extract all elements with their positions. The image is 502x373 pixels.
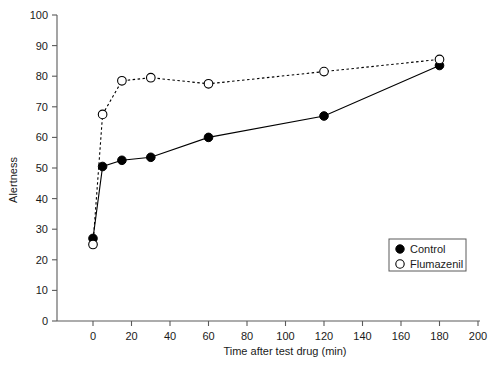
y-tick-label: 90 — [36, 40, 48, 52]
data-point-control — [98, 162, 107, 171]
data-point-flumazenil — [98, 110, 107, 119]
x-tick-label: 40 — [164, 330, 176, 342]
legend-marker-control — [396, 245, 404, 253]
data-point-control — [147, 153, 156, 162]
y-tick-label: 10 — [36, 284, 48, 296]
y-axis-title: Alertness — [7, 157, 19, 203]
chart-figure: 0102030405060708090100 02040608010012014… — [0, 0, 502, 373]
x-tick-label: 120 — [315, 330, 333, 342]
data-point-flumazenil — [320, 67, 329, 76]
x-tick-label: 100 — [276, 330, 294, 342]
data-point-control — [118, 156, 127, 165]
x-axis: 020406080100120140160180200 — [57, 321, 487, 342]
y-tick-label: 20 — [36, 254, 48, 266]
x-tick-label: 140 — [353, 330, 371, 342]
data-point-flumazenil — [118, 77, 127, 86]
alertness-line-chart: 0102030405060708090100 02040608010012014… — [0, 0, 502, 373]
series-line-flumazenil — [93, 59, 440, 244]
y-tick-label: 60 — [36, 131, 48, 143]
y-tick-label: 30 — [36, 223, 48, 235]
x-tick-label: 80 — [241, 330, 253, 342]
x-tick-label: 0 — [90, 330, 96, 342]
y-tick-label: 70 — [36, 101, 48, 113]
data-point-flumazenil — [435, 55, 444, 64]
data-point-flumazenil — [89, 240, 98, 249]
x-tick-label: 180 — [430, 330, 448, 342]
legend-label-flumazenil: Flumazenil — [410, 258, 463, 270]
data-series-group — [89, 55, 444, 249]
x-tick-label: 20 — [125, 330, 137, 342]
x-axis-title: Time after test drug (min) — [223, 345, 346, 357]
y-tick-label: 50 — [36, 162, 48, 174]
x-tick-label: 200 — [469, 330, 487, 342]
legend-marker-flumazenil — [396, 260, 404, 268]
y-tick-label: 40 — [36, 193, 48, 205]
y-tick-label: 0 — [42, 315, 48, 327]
data-point-control — [204, 133, 213, 142]
y-tick-label: 80 — [36, 70, 48, 82]
x-tick-label: 160 — [392, 330, 410, 342]
legend-label-control: Control — [410, 243, 445, 255]
chart-legend: ControlFlumazenil — [389, 239, 466, 271]
data-point-flumazenil — [204, 80, 213, 89]
series-line-control — [93, 66, 440, 239]
y-tick-label: 100 — [30, 9, 48, 21]
data-point-flumazenil — [147, 73, 156, 82]
y-axis: 0102030405060708090100 — [30, 9, 57, 327]
data-point-control — [320, 112, 329, 121]
x-tick-label: 60 — [202, 330, 214, 342]
